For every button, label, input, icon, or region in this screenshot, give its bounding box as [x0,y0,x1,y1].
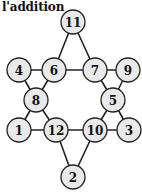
node-label: 4 [15,64,23,78]
node-label: 5 [109,94,117,108]
node-label: 9 [124,64,132,78]
node-8: 8 [24,88,48,112]
node-label: 1 [15,124,23,138]
node-3: 3 [117,118,141,142]
node-label: 2 [69,171,77,185]
node-7: 7 [83,58,107,82]
node-9: 9 [116,58,140,82]
node-label: 8 [32,94,40,108]
node-1: 1 [7,118,31,142]
nodes: 114679851121032 [7,10,141,189]
node-label: 3 [125,124,133,138]
node-6: 6 [42,58,66,82]
node-4: 4 [7,58,31,82]
node-12: 12 [44,118,68,142]
node-label: 6 [50,64,58,78]
node-label: 10 [87,124,104,138]
node-5: 5 [101,88,125,112]
node-2: 2 [61,165,85,189]
node-label: 12 [48,124,65,138]
node-11: 11 [61,10,85,34]
number-star-diagram: 114679851121032 [0,0,142,194]
node-label: 11 [65,16,82,30]
node-label: 7 [91,64,99,78]
node-10: 10 [83,118,107,142]
